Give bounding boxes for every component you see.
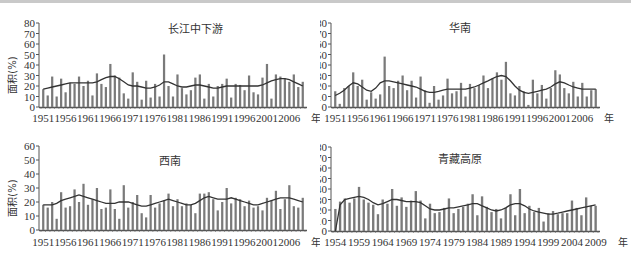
bar — [533, 212, 535, 231]
bar — [127, 99, 129, 107]
bar — [56, 97, 58, 108]
x-tick-label: 1984 — [466, 236, 489, 248]
bar — [87, 81, 89, 107]
bar — [181, 206, 183, 230]
bar — [208, 192, 210, 230]
y-tick-label: 60 — [24, 140, 36, 152]
bar — [64, 92, 66, 107]
y-tick-label: 40 — [24, 59, 36, 71]
bar — [252, 208, 254, 230]
bar — [527, 105, 529, 107]
x-tick-label: 1971 — [414, 112, 436, 124]
bar — [363, 200, 365, 232]
bar — [176, 199, 178, 230]
bar — [434, 213, 436, 231]
bar — [443, 208, 445, 231]
x-tick-label: 1996 — [234, 236, 257, 248]
x-tick-label: 1976 — [144, 236, 167, 248]
bar — [481, 196, 483, 231]
bar — [396, 206, 398, 231]
x-tick-label: 2006 — [278, 112, 301, 124]
bar — [243, 90, 245, 107]
bar — [367, 203, 369, 231]
bar — [576, 208, 578, 231]
bar — [419, 77, 421, 107]
chart-title: 西南 — [159, 155, 181, 168]
bar — [266, 64, 268, 107]
bar — [243, 206, 245, 230]
y-tick-label: 60 — [24, 38, 36, 50]
bar — [270, 99, 272, 107]
x-tick-label: 1956 — [55, 236, 78, 248]
bar — [60, 192, 62, 230]
y-tick-label: 40 — [320, 183, 328, 195]
x-tick-label: 1964 — [372, 236, 395, 248]
bar — [514, 95, 516, 107]
bar — [462, 207, 464, 231]
bar — [455, 91, 457, 107]
bar — [523, 91, 525, 107]
bar — [532, 80, 534, 107]
bar — [288, 185, 290, 230]
bar — [415, 191, 417, 231]
bar — [248, 201, 250, 230]
y-tick-label: 50 — [24, 154, 36, 166]
y-tick-label: 50 — [24, 49, 36, 61]
bar — [379, 94, 381, 107]
x-tick-label: 2001 — [256, 112, 278, 124]
bar — [563, 88, 565, 107]
y-tick-label: 20 — [320, 204, 328, 216]
bar — [132, 72, 134, 107]
x-tick-label: 1954 — [324, 236, 347, 248]
bar — [559, 74, 561, 107]
bar — [73, 84, 75, 107]
x-tick-label: 2001 — [549, 112, 571, 124]
bar — [105, 87, 107, 107]
bar — [353, 198, 355, 231]
chart-panel-changjiang: 01020304050607080面积(%)195119561961196619… — [0, 0, 320, 130]
bar — [476, 215, 478, 231]
x-tick-label: 1976 — [144, 112, 167, 124]
bar — [194, 78, 196, 107]
bar — [279, 77, 281, 107]
bar — [406, 90, 408, 107]
y-tick-label: 40 — [320, 59, 328, 71]
bar — [257, 206, 259, 230]
y-tick-label: 30 — [320, 70, 328, 82]
bar — [199, 194, 201, 230]
bar — [270, 201, 272, 230]
bar — [91, 95, 93, 107]
bar — [252, 92, 254, 107]
x-tick-label: 1956 — [347, 112, 370, 124]
bar — [572, 82, 574, 107]
bar — [339, 104, 341, 107]
bar — [82, 86, 84, 107]
bar — [158, 97, 160, 108]
bar — [217, 210, 219, 230]
bar — [190, 205, 192, 230]
bar — [297, 208, 299, 230]
x-axis-unit: 年 — [311, 112, 320, 124]
x-tick-label: 2001 — [256, 236, 278, 248]
bar — [505, 208, 507, 231]
bar — [185, 203, 187, 230]
bar — [410, 81, 412, 107]
x-tick-label: 1981 — [166, 112, 188, 124]
x-tick-label: 1966 — [392, 112, 415, 124]
bar — [141, 213, 143, 230]
bar — [393, 88, 395, 107]
x-tick-label: 2009 — [585, 236, 608, 248]
trend-line — [43, 77, 303, 90]
x-tick-label: 1994 — [514, 236, 537, 248]
x-tick-label: 1991 — [211, 112, 233, 124]
bar — [163, 55, 165, 108]
bar — [490, 212, 492, 231]
bar — [442, 95, 444, 107]
bar — [424, 90, 426, 107]
x-tick-label: 1991 — [211, 236, 233, 248]
x-tick-label: 1961 — [77, 236, 99, 248]
bar — [56, 219, 58, 230]
bar — [523, 213, 525, 231]
bar — [415, 98, 417, 107]
bar — [495, 209, 497, 231]
